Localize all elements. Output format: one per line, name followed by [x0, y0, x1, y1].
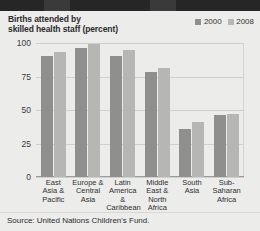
bar-2000	[145, 72, 157, 177]
legend-swatch-2008	[228, 19, 234, 25]
chart-title: Births attended by skilled health staff …	[8, 14, 148, 34]
y-axis-tick-0: 0	[26, 172, 31, 182]
bar-groups	[36, 43, 244, 177]
x-axis-label: LatinAmerica &Caribbean	[106, 179, 139, 213]
plot-area: 1007550250	[36, 43, 244, 177]
x-axis-label: Sub-SaharanAfrica	[210, 179, 243, 213]
bar-group	[73, 43, 103, 177]
x-axis-label-line: Asia	[71, 196, 104, 204]
bar-2008	[158, 68, 170, 177]
bar-group	[177, 43, 207, 177]
x-axis-label: Europe &CentralAsia	[71, 179, 104, 213]
header-band	[0, 0, 260, 11]
chart-figure: Births attended by skilled health staff …	[0, 0, 260, 231]
header-band-notch-right	[150, 0, 176, 11]
chart-title-line-2: skilled health staff (percent)	[8, 24, 148, 34]
x-axis-label-line: Pacific	[37, 196, 70, 204]
chart-title-line-1: Births attended by	[8, 14, 148, 24]
gridline-0	[36, 177, 244, 178]
bar-group	[142, 43, 172, 177]
chart-legend: 2000 2008	[195, 18, 254, 26]
x-axis-label-line: Africa	[210, 196, 243, 204]
x-axis-label: SouthAsia	[175, 179, 208, 213]
x-axis-label-line: America &	[106, 187, 139, 204]
bar-group	[212, 43, 242, 177]
bar-2000	[110, 56, 122, 177]
bar-2000	[41, 56, 53, 177]
bar-2008	[123, 50, 135, 177]
y-axis-tick-100: 100	[17, 38, 31, 48]
bar-2008	[192, 122, 204, 177]
bar-2008	[54, 52, 66, 177]
legend-item-2000: 2000	[195, 18, 221, 26]
x-axis-labels: EastAsia &PacificEurope &CentralAsiaLati…	[36, 179, 244, 213]
bar-2000	[214, 115, 226, 177]
bar-2000	[179, 129, 191, 177]
legend-item-2008: 2008	[228, 18, 254, 26]
y-axis-tick-25: 25	[22, 139, 31, 149]
source-note: Source: United Nations Children's Fund.	[7, 216, 150, 225]
x-axis-label-line: Asia	[175, 187, 208, 195]
header-band-notch-left	[44, 0, 70, 11]
legend-swatch-2000	[195, 19, 201, 25]
x-axis-label: EastAsia &Pacific	[37, 179, 70, 213]
legend-label-2000: 2000	[204, 18, 222, 26]
bar-2000	[75, 48, 87, 177]
bar-group	[38, 43, 68, 177]
bar-2008	[227, 114, 239, 177]
x-axis-label: MiddleEast &NorthAfrica	[141, 179, 174, 213]
y-axis-tick-50: 50	[22, 105, 31, 115]
source-divider	[0, 212, 260, 213]
y-axis-tick-75: 75	[22, 72, 31, 82]
legend-label-2008: 2008	[236, 18, 254, 26]
bar-group	[108, 43, 138, 177]
bar-2008	[88, 44, 100, 177]
